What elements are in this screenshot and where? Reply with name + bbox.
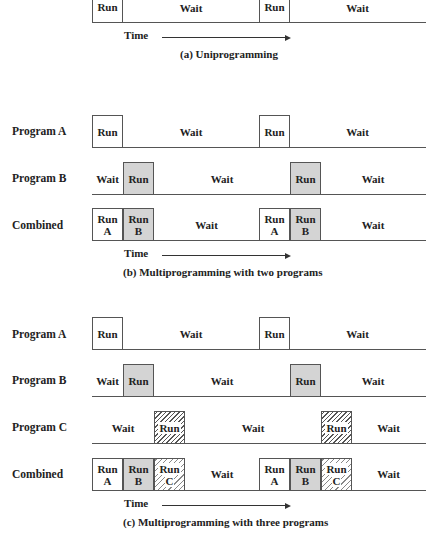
wait-label: Wait xyxy=(92,422,154,434)
program-letter: A xyxy=(271,225,279,237)
run-label: Run xyxy=(264,126,284,138)
program-letter: B xyxy=(135,475,142,487)
time-arrow xyxy=(162,37,289,38)
timeline xyxy=(92,349,426,350)
run-box-c: Run C xyxy=(321,458,352,490)
wait-label: Wait xyxy=(154,219,259,231)
timeline xyxy=(92,194,426,195)
program-letter: A xyxy=(271,475,279,487)
run-label: Run xyxy=(97,126,117,138)
wait-label: Wait xyxy=(290,328,425,340)
wait-label: Wait xyxy=(92,375,123,387)
run-label: Run xyxy=(295,173,315,185)
run-box-b: Run B xyxy=(290,208,321,240)
run-label: Run xyxy=(264,328,284,340)
run-box: Run xyxy=(92,115,123,147)
time-label: Time xyxy=(124,497,148,509)
row-label: Program C xyxy=(12,421,67,433)
run-label: Run xyxy=(97,213,117,225)
program-letter: A xyxy=(104,225,112,237)
program-letter: A xyxy=(104,475,112,487)
row-label: Program B xyxy=(12,172,66,184)
run-label: Run xyxy=(295,375,315,387)
run-box-c: Run xyxy=(321,411,352,443)
program-letter: B xyxy=(302,225,309,237)
run-box-b: Run xyxy=(123,162,154,194)
run-box-a: Run A xyxy=(92,208,123,240)
run-box: Run xyxy=(259,115,290,147)
run-box-a: Run A xyxy=(92,458,123,490)
wait-label: Wait xyxy=(352,468,425,480)
run-box-a: Run A xyxy=(259,458,290,490)
run-label: Run xyxy=(295,463,315,475)
run-box-b: Run xyxy=(123,364,154,396)
run-box-b: Run xyxy=(290,162,321,194)
time-label: Time xyxy=(124,247,148,259)
run-box-a: Run A xyxy=(259,208,290,240)
row-label: Combined xyxy=(12,468,63,480)
timeline xyxy=(92,443,426,444)
timeline xyxy=(92,147,426,148)
run-label: Run xyxy=(128,375,148,387)
wait-label: Wait xyxy=(185,422,321,434)
wait-label: Wait xyxy=(290,126,425,138)
run-box-b: Run B xyxy=(123,208,154,240)
row-label: Program A xyxy=(12,125,66,137)
timeline xyxy=(92,396,426,397)
program-letter: B xyxy=(135,225,142,237)
run-label: Run xyxy=(128,173,148,185)
program-letter: B xyxy=(302,475,309,487)
caption: (c) Multiprogramming with three programs xyxy=(123,516,328,528)
wait-label: Wait xyxy=(321,173,425,185)
run-label: Run xyxy=(128,463,148,475)
run-box-c: Run C xyxy=(154,458,185,490)
wait-label: Wait xyxy=(154,375,290,387)
run-label: Run xyxy=(264,213,284,225)
wait-label: Wait xyxy=(154,173,290,185)
time-label: Time xyxy=(124,29,148,41)
timeline xyxy=(92,490,426,491)
time-arrow xyxy=(162,505,289,506)
run-label: Run xyxy=(264,1,284,13)
run-box-b: Run B xyxy=(123,458,154,490)
time-arrow xyxy=(162,255,289,256)
wait-label: Wait xyxy=(123,328,259,340)
run-box: Run xyxy=(92,0,123,22)
run-label: Run xyxy=(97,463,117,475)
wait-label: Wait xyxy=(321,375,425,387)
run-label: Run xyxy=(264,463,284,475)
timeline xyxy=(92,22,426,23)
row-label: Program A xyxy=(12,328,66,340)
run-label: Run xyxy=(97,328,117,340)
wait-label: Wait xyxy=(352,422,425,434)
run-label: Run xyxy=(158,422,180,434)
run-label: Run xyxy=(325,463,347,475)
run-box: Run xyxy=(259,0,290,22)
run-box: Run xyxy=(92,317,123,349)
wait-label: Wait xyxy=(123,2,259,14)
program-letter: C xyxy=(332,475,342,487)
wait-label: Wait xyxy=(290,2,425,14)
program-letter: C xyxy=(165,475,175,487)
wait-label: Wait xyxy=(123,126,259,138)
wait-label: Wait xyxy=(185,468,259,480)
run-label: Run xyxy=(97,1,117,13)
run-box-b: Run B xyxy=(290,458,321,490)
wait-label: Wait xyxy=(92,173,123,185)
run-box: Run xyxy=(259,317,290,349)
run-label: Run xyxy=(295,213,315,225)
run-label: Run xyxy=(158,463,180,475)
run-label: Run xyxy=(128,213,148,225)
wait-label: Wait xyxy=(321,219,425,231)
timeline xyxy=(92,240,426,241)
caption: (b) Multiprogramming with two programs xyxy=(123,266,322,278)
run-box-b: Run xyxy=(290,364,321,396)
row-label: Program B xyxy=(12,374,66,386)
run-label: Run xyxy=(325,422,347,434)
run-box-c: Run xyxy=(154,411,185,443)
row-label: Combined xyxy=(12,219,63,231)
caption: (a) Uniprogramming xyxy=(180,48,278,60)
